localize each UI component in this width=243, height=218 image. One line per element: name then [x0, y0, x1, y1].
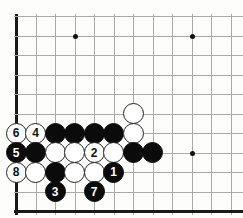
stone-white-move-2: 2 [84, 142, 105, 163]
stone-move-number: 4 [32, 127, 39, 139]
stone-move-number: 8 [13, 166, 20, 178]
grid-line-vertical [172, 14, 173, 215]
grid-line-vertical [36, 14, 37, 215]
stone-white [84, 162, 105, 183]
stone-black-move-3: 3 [45, 181, 66, 202]
grid-line-vertical [75, 14, 76, 215]
stone-black [103, 123, 124, 144]
grid-line-horizontal [14, 94, 243, 95]
stone-black [123, 142, 144, 163]
stone-white-move-8: 8 [6, 162, 27, 183]
board-edge-left [15, 14, 18, 215]
grid-line-vertical [211, 14, 212, 215]
grid-line-horizontal [14, 55, 243, 56]
stone-black-move-5: 5 [6, 142, 27, 163]
grid-line-horizontal [14, 36, 243, 37]
stone-black [64, 123, 85, 144]
stone-black [84, 123, 105, 144]
stone-black-move-1: 1 [103, 162, 124, 183]
stone-move-number: 1 [110, 166, 117, 178]
grid-line-horizontal [14, 75, 243, 76]
star-point [73, 34, 78, 39]
stone-black-move-7: 7 [84, 181, 105, 202]
go-board-diagram: 64528137 [0, 0, 243, 218]
stone-white-move-4: 4 [25, 123, 46, 144]
stone-move-number: 5 [13, 146, 20, 158]
board-edge-bottom [14, 210, 243, 213]
stone-black [25, 142, 46, 163]
grid-line-vertical [192, 14, 193, 215]
stone-move-number: 6 [13, 127, 20, 139]
stone-move-number: 7 [91, 185, 98, 197]
grid-line-vertical [153, 14, 154, 215]
stone-black [142, 142, 163, 163]
stone-black [45, 162, 66, 183]
grid-line-horizontal [14, 16, 243, 17]
stone-white [103, 142, 124, 163]
stone-move-number: 2 [91, 146, 98, 158]
stone-white [123, 103, 144, 124]
stone-white [25, 162, 46, 183]
stone-move-number: 3 [52, 185, 59, 197]
stone-black [45, 123, 66, 144]
star-point [190, 151, 195, 156]
star-point [190, 34, 195, 39]
stone-white [64, 162, 85, 183]
stone-white-move-6: 6 [6, 123, 27, 144]
grid-line-vertical [114, 14, 115, 215]
stone-white [123, 123, 144, 144]
stone-white [45, 142, 66, 163]
stone-white [64, 142, 85, 163]
grid-line-vertical [231, 14, 232, 215]
